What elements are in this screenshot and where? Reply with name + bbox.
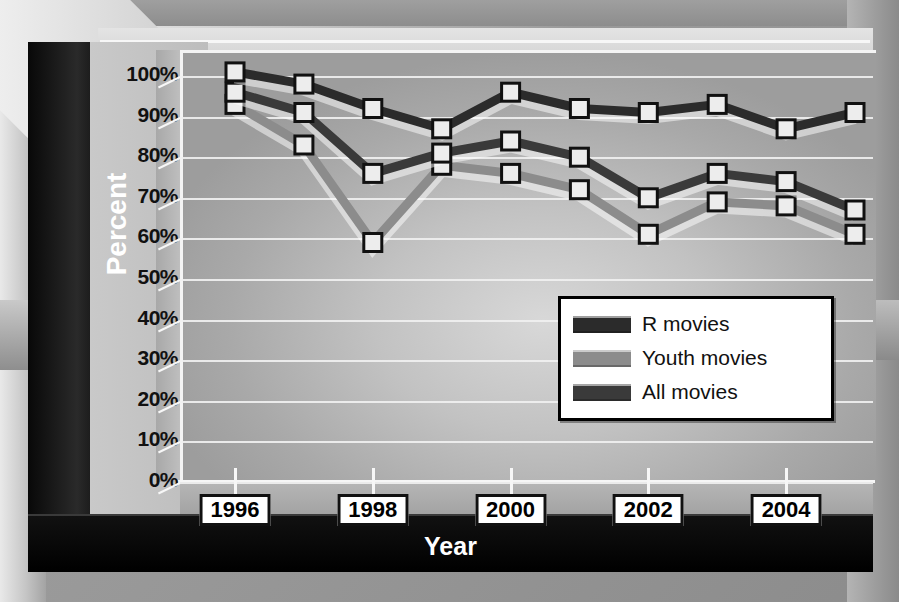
legend-color-swatch: [573, 316, 631, 333]
legend-label: Youth movies: [642, 346, 767, 370]
data-point-marker: [708, 193, 726, 211]
legend-item: All movies: [573, 375, 821, 409]
y-axis-tick-label: 0%: [48, 468, 178, 492]
data-point-marker: [777, 197, 795, 215]
data-point-marker: [846, 104, 864, 122]
legend-label: R movies: [642, 312, 730, 336]
y-axis-tick-label: 10%: [48, 427, 178, 451]
data-point-marker: [708, 164, 726, 182]
x-axis-title: Year: [28, 532, 873, 561]
data-point-marker: [364, 100, 382, 118]
legend-label: All movies: [642, 380, 738, 404]
chart-3d-block: 0%10%20%30%40%50%60%70%80%90%100% Percen…: [28, 16, 873, 572]
data-point-marker: [639, 225, 657, 243]
chart-image-frame: 0%10%20%30%40%50%60%70%80%90%100% Percen…: [0, 0, 899, 602]
legend-color-swatch: [573, 350, 631, 367]
data-point-marker: [570, 148, 588, 166]
data-point-marker: [226, 63, 244, 81]
data-point-marker: [708, 95, 726, 113]
data-point-marker: [846, 201, 864, 219]
data-point-marker: [777, 120, 795, 138]
data-point-marker: [433, 120, 451, 138]
data-point-marker: [364, 164, 382, 182]
data-point-marker: [295, 136, 313, 154]
data-point-marker: [502, 164, 520, 182]
data-point-marker: [295, 75, 313, 93]
y-axis-tick-label: 90%: [48, 103, 178, 127]
series-line-shadow: [235, 77, 855, 134]
x-axis-tick-label: 2000: [475, 494, 546, 526]
x-axis-tick-label: 1996: [200, 494, 271, 526]
series-line-shadow: [235, 97, 855, 215]
data-point-marker: [502, 132, 520, 150]
x-axis-tick-label: 2002: [613, 494, 684, 526]
legend-color-swatch: [573, 384, 631, 401]
y-axis-tick-label: 30%: [48, 346, 178, 370]
data-point-marker: [502, 83, 520, 101]
data-point-marker: [226, 83, 244, 101]
legend-item: Youth movies: [573, 341, 821, 375]
data-point-marker: [433, 144, 451, 162]
data-point-marker: [570, 100, 588, 118]
data-point-marker: [639, 104, 657, 122]
data-point-marker: [364, 234, 382, 252]
data-point-marker: [570, 181, 588, 199]
data-point-marker: [639, 189, 657, 207]
y-axis-tick-label: 100%: [48, 62, 178, 86]
x-axis-tick-label: 2004: [751, 494, 822, 526]
y-axis-tick-label: 20%: [48, 387, 178, 411]
data-point-marker: [295, 104, 313, 122]
data-point-marker: [777, 173, 795, 191]
data-point-marker: [846, 225, 864, 243]
gridline: [180, 482, 873, 484]
y-axis-title: Percent: [101, 149, 133, 299]
chart-legend: R moviesYouth moviesAll movies: [558, 296, 834, 421]
legend-item: R movies: [573, 307, 821, 341]
x-axis-tick-label: 1998: [337, 494, 408, 526]
chart-top-bevel: [100, 40, 870, 43]
y-axis-tick-label: 40%: [48, 306, 178, 330]
